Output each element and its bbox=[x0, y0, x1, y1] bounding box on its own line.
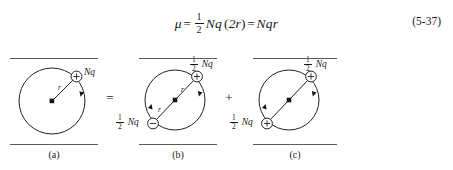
equation-paren-close: ) bbox=[241, 16, 246, 32]
panel-c-center-dot bbox=[287, 98, 292, 103]
panel-b-charge-minus-label: 1 2 Nq bbox=[114, 114, 139, 132]
panel-b-center-dot bbox=[173, 98, 178, 103]
panel-b-current-arrowhead-left bbox=[148, 104, 153, 110]
panel-b-bottom-rule bbox=[139, 144, 217, 145]
panel-c-bottom-rule bbox=[253, 144, 337, 145]
page-root: μ = 1 2 Nq ( 2r ) = Nqr (5-37) bbox=[0, 0, 453, 170]
figure-operator-plus: + bbox=[221, 90, 237, 106]
panel-c-label-num: 1 bbox=[304, 56, 312, 64]
panel-b-radius-label-2: r bbox=[158, 105, 161, 114]
panel-c-current-arrowhead-left bbox=[262, 104, 267, 110]
panel-c-label2-text: Nq bbox=[242, 118, 253, 128]
panel-b-label2-den: 2 bbox=[116, 123, 124, 131]
equation-rhs-nqr: Nqr bbox=[257, 16, 279, 32]
panel-a-charge-label-text: Nq bbox=[84, 67, 95, 77]
equation-term-2r: 2r bbox=[229, 16, 241, 32]
panel-c-caption: (c) bbox=[253, 149, 337, 160]
panel-a: Nq r (a) bbox=[10, 52, 98, 170]
equation-term-nq: Nq bbox=[206, 16, 222, 32]
equation-equals-2: = bbox=[247, 16, 255, 32]
panel-a-radius-line bbox=[52, 78, 75, 101]
panel-b-radius-label-1: r bbox=[181, 85, 184, 94]
figure-diagram: Nq r (a) = bbox=[0, 52, 453, 170]
panel-c-label-text: Nq bbox=[316, 60, 327, 70]
equation-equals-1: = bbox=[183, 16, 191, 32]
panel-c-label2-num: 1 bbox=[230, 114, 238, 122]
fraction-numerator: 1 bbox=[195, 12, 204, 23]
equation-one-half-fraction: 1 2 bbox=[195, 12, 204, 35]
panel-b: 1 2 Nq 1 2 Nq r r (b) bbox=[131, 52, 217, 170]
panel-a-caption: (a) bbox=[10, 149, 98, 160]
panel-b-label-text: Nq bbox=[202, 60, 213, 70]
panel-c-label-den: 2 bbox=[304, 65, 312, 73]
fraction-denominator: 2 bbox=[195, 25, 204, 36]
panel-b-label2-text: Nq bbox=[128, 118, 139, 128]
panel-b-label-fraction: 1 2 bbox=[190, 56, 198, 74]
panel-b-current-arrowhead-right bbox=[198, 91, 203, 97]
panel-c-charge-plus-label-2: 1 2 Nq bbox=[228, 114, 253, 132]
panel-a-canvas bbox=[10, 52, 98, 144]
panel-c-charge-plus-label-1: 1 2 Nq bbox=[302, 56, 327, 74]
figure-operator-equals: = bbox=[102, 90, 118, 106]
equation-mu-symbol: μ bbox=[175, 16, 182, 32]
panel-a-center-dot bbox=[50, 99, 55, 104]
panel-c-label2-fraction: 1 2 bbox=[230, 114, 238, 132]
panel-c-label-fraction: 1 2 bbox=[304, 56, 312, 74]
panel-b-label2-fraction: 1 2 bbox=[116, 114, 124, 132]
panel-a-bottom-rule bbox=[10, 144, 98, 145]
panel-c-label2-den: 2 bbox=[230, 123, 238, 131]
panel-a-radius-label: r bbox=[58, 83, 61, 92]
equation-number: (5-37) bbox=[412, 15, 441, 27]
panel-b-caption: (b) bbox=[139, 149, 217, 160]
panel-b-charge-plus-label: 1 2 Nq bbox=[188, 56, 213, 74]
panel-c: 1 2 Nq 1 2 Nq (c) bbox=[245, 52, 331, 170]
panel-a-charge-label: Nq bbox=[84, 68, 95, 78]
panel-c-current-arrowhead-right bbox=[312, 91, 317, 97]
equation-5-37: μ = 1 2 Nq ( 2r ) = Nqr bbox=[0, 6, 453, 42]
equation-row: μ = 1 2 Nq ( 2r ) = Nqr (5-37) bbox=[0, 6, 453, 42]
panel-b-label-den: 2 bbox=[190, 65, 198, 73]
panel-b-label2-num: 1 bbox=[116, 114, 124, 122]
panel-b-label-num: 1 bbox=[190, 56, 198, 64]
